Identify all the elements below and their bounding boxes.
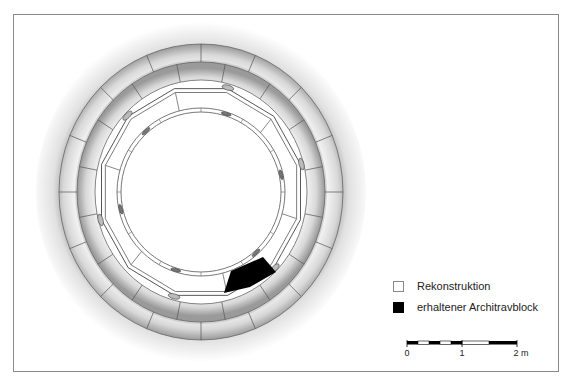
scale-bar <box>407 340 517 347</box>
legend-item-reconstruction: Rekonstruktion <box>393 280 490 292</box>
legend-item-preserved-block: erhaltener Architravblock <box>393 301 538 313</box>
scale-tick-2m: 2 m <box>513 348 528 358</box>
scale-tick-1: 1 <box>459 348 464 358</box>
ground-plan <box>0 0 569 385</box>
reconstruction-swatch <box>393 281 404 292</box>
legend-label: erhaltener Architravblock <box>417 301 538 313</box>
legend-label: Rekonstruktion <box>417 280 490 292</box>
preserved-swatch <box>393 302 404 313</box>
scale-tick-0: 0 <box>404 348 409 358</box>
